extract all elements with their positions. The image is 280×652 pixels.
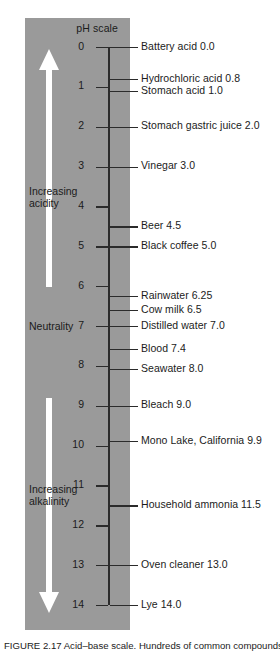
substance-label: Distilled water 7.0 — [141, 319, 225, 331]
substance-label: Stomach gastric juice 2.0 — [141, 119, 260, 131]
axis-tick-label-13: 13 — [72, 558, 84, 570]
leader-line — [110, 369, 138, 370]
substance-label: Cow milk 6.5 — [141, 303, 202, 315]
ph-scale-figure: pH scale Increasing acidity Neutrality I… — [0, 0, 280, 652]
axis-tick-label-4: 4 — [78, 199, 84, 211]
substance-label: Oven cleaner 13.0 — [141, 558, 228, 570]
increasing-acidity-arrow-up — [38, 49, 60, 287]
substance-label: Rainwater 6.25 — [141, 289, 212, 301]
region-alkalinity-line1: Increasing — [29, 484, 77, 496]
figure-caption: FIGURE 2.17 Acid–base scale. Hundreds of… — [4, 640, 280, 651]
substance-label: Stomach acid 1.0 — [141, 84, 223, 96]
substance-label: Household ammonia 11.5 — [141, 498, 261, 510]
leader-line — [110, 167, 138, 168]
axis-tick-mark-8 — [96, 366, 108, 367]
leader-line — [110, 246, 138, 247]
leader-line — [110, 505, 138, 506]
region-label-neutrality: Neutrality — [29, 321, 73, 333]
axis-tick-mark-7 — [96, 326, 108, 327]
leader-line — [110, 406, 138, 407]
axis-tick-mark-12 — [96, 525, 108, 526]
axis-tick-label-6: 6 — [78, 279, 84, 291]
leader-line — [110, 47, 138, 48]
region-label-increasing-alkalinity: Increasing alkalinity — [29, 484, 77, 507]
region-alkalinity-line2: alkalinity — [29, 496, 77, 508]
substance-label: Seawater 8.0 — [141, 362, 203, 374]
leader-line — [110, 605, 138, 606]
axis-tick-label-0: 0 — [78, 40, 84, 52]
axis-tick-label-1: 1 — [78, 79, 84, 91]
substance-label: Vinegar 3.0 — [141, 159, 195, 171]
leader-line — [110, 310, 138, 311]
substance-label: Battery acid 0.0 — [141, 40, 215, 52]
leader-line — [110, 296, 138, 297]
axis-tick-mark-4 — [96, 206, 108, 207]
leader-line — [110, 326, 138, 327]
axis-tick-mark-2 — [96, 127, 108, 128]
leader-line — [110, 127, 138, 128]
leader-line — [110, 226, 138, 227]
axis-tick-mark-10 — [96, 446, 108, 447]
axis-tick-mark-11 — [96, 485, 108, 486]
leader-line — [110, 565, 138, 566]
axis-tick-label-14: 14 — [72, 598, 84, 610]
axis-tick-label-10: 10 — [72, 438, 84, 450]
axis-tick-label-11: 11 — [73, 478, 84, 490]
substance-label: Hydrochloric acid 0.8 — [141, 72, 240, 84]
leader-line — [110, 441, 138, 442]
region-acidity-line1: Increasing — [29, 186, 77, 198]
axis-tick-label-5: 5 — [78, 239, 84, 251]
substance-label: Mono Lake, California 9.9 — [141, 434, 262, 446]
substance-label: Bleach 9.0 — [141, 398, 191, 410]
leader-line — [110, 79, 138, 80]
axis-tick-mark-0 — [96, 47, 108, 48]
leader-line — [110, 349, 138, 350]
substance-label: Blood 7.4 — [141, 342, 186, 354]
axis-tick-mark-14 — [96, 605, 108, 606]
ph-scale-title: pH scale — [0, 22, 118, 34]
region-acidity-line2: acidity — [29, 198, 77, 210]
region-neutrality-line1: Neutrality — [29, 321, 73, 333]
axis-tick-mark-9 — [96, 406, 108, 407]
region-label-increasing-acidity: Increasing acidity — [29, 186, 77, 209]
axis-tick-label-2: 2 — [78, 119, 84, 131]
axis-tick-label-9: 9 — [78, 398, 84, 410]
leader-line — [110, 91, 138, 92]
axis-tick-mark-13 — [96, 565, 108, 566]
axis-tick-label-3: 3 — [78, 159, 84, 171]
axis-tick-mark-5 — [96, 246, 108, 247]
substance-label: Beer 4.5 — [141, 219, 181, 231]
substance-label: Lye 14.0 — [141, 598, 181, 610]
axis-tick-label-12: 12 — [72, 518, 84, 530]
axis-tick-label-8: 8 — [78, 358, 84, 370]
axis-tick-mark-1 — [96, 87, 108, 88]
substance-label: Black coffee 5.0 — [141, 239, 216, 251]
axis-tick-mark-6 — [96, 286, 108, 287]
axis-tick-mark-3 — [96, 167, 108, 168]
axis-tick-label-7: 7 — [78, 319, 84, 331]
